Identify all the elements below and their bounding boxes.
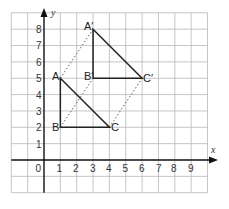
coordinate-grid: x y 0 1 2 3 4 5 6 7 8 9 1 2 3 4 5 6 7 8 … <box>0 0 229 209</box>
y-tick-5: 5 <box>36 73 42 84</box>
x-axis-label: x <box>210 144 216 155</box>
x-tick-8: 8 <box>171 163 177 174</box>
x-tick-7: 7 <box>156 163 162 174</box>
y-tick-7: 7 <box>36 40 42 51</box>
y-tick-labels: 1 2 3 4 5 6 7 8 <box>36 24 42 150</box>
point-label-B: B <box>52 121 59 133</box>
point-label-A-prime: A′ <box>84 20 93 32</box>
y-tick-3: 3 <box>36 106 42 117</box>
y-axis-label: y <box>50 7 56 18</box>
x-tick-1: 1 <box>57 163 63 174</box>
x-tick-3: 3 <box>90 163 96 174</box>
point-label-C: C <box>111 121 119 133</box>
x-axis-arrow-icon <box>209 157 218 164</box>
triangle-ABC <box>60 78 109 127</box>
x-tick-9: 9 <box>188 163 194 174</box>
origin-label: 0 <box>36 163 42 174</box>
point-label-C-prime: C′ <box>143 72 153 84</box>
axes: x y <box>11 7 218 193</box>
triangle-A-prime-B-prime-C-prime <box>93 29 142 78</box>
point-label-A: A <box>52 70 60 82</box>
y-tick-6: 6 <box>36 57 42 68</box>
point-label-B-prime: B′ <box>84 70 93 82</box>
x-tick-labels: 0 1 2 3 4 5 6 7 8 9 <box>36 163 195 174</box>
x-tick-2: 2 <box>73 163 79 174</box>
point-labels: A B C A′ B′ C′ <box>52 20 153 133</box>
x-tick-5: 5 <box>123 163 129 174</box>
x-tick-4: 4 <box>106 163 112 174</box>
y-tick-2: 2 <box>36 122 42 133</box>
y-tick-1: 1 <box>36 139 42 150</box>
y-tick-8: 8 <box>36 24 42 35</box>
y-tick-4: 4 <box>36 90 42 101</box>
x-tick-6: 6 <box>139 163 145 174</box>
